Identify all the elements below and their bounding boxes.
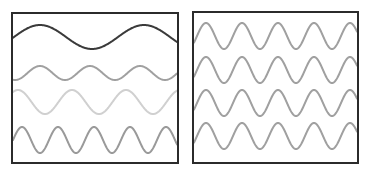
wave-diagram	[0, 0, 373, 184]
wave-row-2	[194, 57, 357, 83]
wave-row-4	[194, 123, 357, 149]
wave-row-1	[194, 23, 357, 49]
wave-low-frequency	[13, 25, 177, 49]
wave-high-frequency	[13, 127, 177, 153]
panel-left-mixed-waves	[12, 13, 178, 163]
wave-medium	[13, 90, 177, 114]
wave-small-amplitude	[13, 66, 177, 80]
panel-left-border	[12, 13, 178, 163]
wave-row-3	[194, 90, 357, 116]
panel-right-uniform-waves	[193, 12, 358, 163]
